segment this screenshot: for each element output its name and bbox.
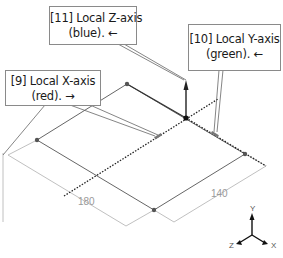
callout-local-x-axis: [9] Local X-axis (red). → xyxy=(5,70,101,106)
origin-point xyxy=(183,115,188,120)
plane-top-edge-to-origin xyxy=(127,84,186,118)
callout-x-title: [9] Local X-axis xyxy=(6,74,100,89)
callout-y-title: [10] Local Y-axis xyxy=(189,32,280,47)
local-x-axis-line xyxy=(64,99,218,196)
callout-x-subtitle: (red). → xyxy=(6,89,100,104)
dimension-lines xyxy=(3,140,266,226)
triad-x-label: X xyxy=(271,241,277,250)
callout-local-y-axis: [10] Local Y-axis (green). ← xyxy=(188,24,281,71)
triad-z-label: Z xyxy=(229,241,234,250)
local-y-axis-line xyxy=(186,118,266,166)
dimension-width-label: 140 xyxy=(211,188,228,199)
triad-y-label: Y xyxy=(250,204,256,213)
callout-y-subtitle: (green). ← xyxy=(189,47,280,62)
callout-local-z-axis: [11] Local Z-axis (blue). ← xyxy=(49,6,137,45)
triad-y-arrow-icon xyxy=(250,213,255,220)
callout-z-subtitle: (blue). ← xyxy=(50,26,136,41)
coordinate-triad: Y Z X xyxy=(229,204,277,250)
local-z-axis-arrowhead xyxy=(184,80,189,90)
callout-z-title: [11] Local Z-axis xyxy=(50,11,136,26)
dimension-length-label: 180 xyxy=(78,196,95,207)
